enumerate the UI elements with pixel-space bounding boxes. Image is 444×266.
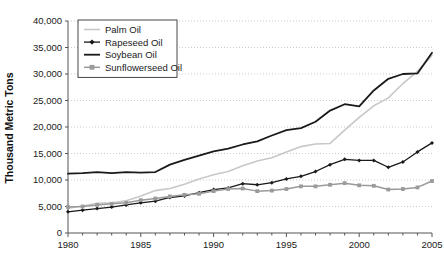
data-point-marker (372, 158, 376, 162)
data-point-marker (81, 205, 85, 209)
data-point-marker (401, 187, 405, 191)
legend-item-rapeseed-oil: Rapeseed Oil (105, 37, 163, 48)
series-line-sunflowerseed-oil (68, 181, 432, 207)
x-tick-label: 1985 (130, 239, 151, 250)
data-point-marker (299, 184, 303, 188)
data-point-marker (416, 186, 420, 190)
x-tick-label: 1990 (203, 239, 224, 250)
data-point-marker (430, 179, 434, 183)
legend-item-sunflowerseed-oil: Sunflowerseed Oil (105, 62, 182, 73)
y-tick-label: 20,000 (33, 121, 62, 132)
y-tick-label: 0 (57, 227, 62, 238)
y-tick-label: 5,000 (38, 201, 62, 212)
data-point-marker (110, 202, 114, 206)
data-point-marker (357, 183, 361, 187)
data-point-marker (386, 165, 390, 169)
data-point-marker (255, 183, 259, 187)
data-point-marker (226, 187, 230, 191)
data-point-marker (343, 157, 347, 161)
y-tick-label: 15,000 (33, 148, 62, 159)
data-point-marker (314, 184, 318, 188)
data-point-marker (270, 189, 274, 193)
data-point-marker (183, 193, 187, 197)
data-point-marker (299, 174, 303, 178)
data-point-marker (153, 197, 157, 201)
data-point-marker (124, 201, 128, 205)
y-tick-label: 35,000 (33, 42, 62, 53)
x-tick-label: 1980 (57, 239, 78, 250)
data-point-marker (139, 198, 143, 202)
legend-item-soybean-oil: Soybean Oil (105, 49, 157, 60)
data-point-marker (314, 170, 318, 174)
y-tick-label: 30,000 (33, 68, 62, 79)
data-point-marker (95, 207, 99, 211)
x-tick-label: 1995 (276, 239, 297, 250)
data-point-marker (255, 189, 259, 193)
data-point-marker (197, 192, 201, 196)
data-point-marker (81, 208, 85, 212)
legend-item-palm-oil: Palm Oil (105, 24, 141, 35)
data-point-marker (386, 188, 390, 192)
data-point-marker (212, 189, 216, 193)
data-point-marker (328, 163, 332, 167)
data-point-marker (66, 205, 70, 209)
data-point-marker (241, 187, 245, 191)
x-axis: 198019851990199520002005 (57, 233, 442, 250)
line-chart: 05,00010,00015,00020,00025,00030,00035,0… (0, 0, 444, 266)
chart-container: 05,00010,00015,00020,00025,00030,00035,0… (0, 0, 444, 266)
series-line-palm-oil (68, 55, 432, 208)
data-point-marker (270, 181, 274, 185)
data-point-marker (343, 181, 347, 185)
x-tick-label: 2005 (421, 239, 442, 250)
chart-legend: Palm OilRapeseed OilSoybean OilSunflower… (78, 20, 182, 77)
x-tick-label: 2000 (349, 239, 370, 250)
y-tick-label: 40,000 (33, 15, 62, 26)
data-point-marker (372, 184, 376, 188)
data-point-marker (328, 183, 332, 187)
y-axis: 05,00010,00015,00020,00025,00030,00035,0… (33, 15, 68, 238)
data-point-marker (241, 182, 245, 186)
data-point-marker (357, 158, 361, 162)
y-tick-label: 25,000 (33, 95, 62, 106)
y-axis-title: Thousand Metric Tons (3, 72, 15, 183)
data-point-marker (95, 203, 99, 207)
data-point-marker (66, 210, 70, 214)
data-point-marker (285, 187, 289, 191)
y-tick-label: 10,000 (33, 174, 62, 185)
data-point-marker (168, 195, 172, 199)
